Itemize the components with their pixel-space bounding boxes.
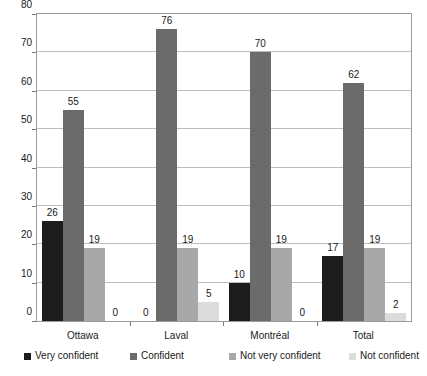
- x-axis-category-label: Ottawa: [67, 330, 99, 341]
- x-axis-tick-mark: [223, 322, 224, 326]
- y-axis-tick-label: 10: [4, 269, 32, 279]
- bar[interactable]: [229, 283, 250, 321]
- bar[interactable]: [42, 221, 63, 321]
- bar-group-bars: 1762192: [322, 14, 406, 321]
- bar-slot: 19: [364, 14, 385, 321]
- bar[interactable]: [156, 29, 177, 321]
- bar-group-bars: 1070190: [229, 14, 313, 321]
- y-axis-tick-label: 20: [4, 230, 32, 240]
- bar-group: 2655190: [37, 14, 131, 321]
- legend-item[interactable]: Not very confident: [229, 350, 321, 362]
- bar[interactable]: [271, 248, 292, 321]
- legend-swatch-icon: [24, 353, 31, 360]
- legend-swatch-icon: [130, 353, 137, 360]
- bar-value-label: 2: [393, 300, 399, 310]
- legend-swatch-icon: [349, 353, 356, 360]
- bar-value-label: 5: [206, 289, 212, 299]
- bars-layer: 265519007619510701901762192: [37, 14, 411, 321]
- bar-slot: 10: [229, 14, 250, 321]
- legend-label: Not very confident: [240, 350, 321, 362]
- bar-slot: 2: [385, 14, 406, 321]
- x-axis: OttawaLavalMontréalTotal: [36, 322, 412, 346]
- bar[interactable]: [322, 256, 343, 321]
- bar-value-label: 0: [143, 308, 149, 318]
- bar-slot: 17: [322, 14, 343, 321]
- legend-item[interactable]: Confident: [130, 350, 184, 362]
- chart-legend: Very confidentConfidentNot very confiden…: [24, 350, 416, 366]
- bar-value-label: 19: [276, 235, 287, 245]
- bar-value-label: 62: [348, 70, 359, 80]
- bar-value-label: 55: [68, 97, 79, 107]
- bar-slot: 26: [42, 14, 63, 321]
- bar[interactable]: [343, 83, 364, 321]
- bar-slot: 0: [292, 14, 313, 321]
- bar-slot: 5: [198, 14, 219, 321]
- y-axis-tick-label: 60: [4, 77, 32, 87]
- y-axis-tick-label: 50: [4, 115, 32, 125]
- x-axis-category-label: Laval: [164, 330, 188, 341]
- legend-label: Not confident: [360, 350, 419, 362]
- bar-group: 1070190: [224, 14, 318, 321]
- bar-slot: 76: [156, 14, 177, 321]
- y-axis-tick-label: 40: [4, 154, 32, 164]
- bar-value-label: 19: [182, 235, 193, 245]
- y-axis-tick-label: 80: [4, 0, 32, 10]
- legend-item[interactable]: Not confident: [349, 350, 419, 362]
- bar-value-label: 26: [47, 208, 58, 218]
- x-axis-tick-mark: [130, 322, 131, 326]
- bar-slot: 0: [105, 14, 126, 321]
- bar-slot: 62: [343, 14, 364, 321]
- bar-slot: 70: [250, 14, 271, 321]
- bar[interactable]: [385, 313, 406, 321]
- bar-value-label: 0: [299, 308, 305, 318]
- bar[interactable]: [198, 302, 219, 321]
- bar-group: 076195: [131, 14, 225, 321]
- bar-slot: 0: [135, 14, 156, 321]
- bar-value-label: 76: [161, 16, 172, 26]
- x-axis-category-label: Montréal: [250, 330, 289, 341]
- legend-item[interactable]: Very confident: [24, 350, 98, 362]
- legend-swatch-icon: [229, 353, 236, 360]
- legend-label: Very confident: [35, 350, 98, 362]
- x-axis-category-label: Total: [353, 330, 374, 341]
- bar-group-bars: 2655190: [42, 14, 126, 321]
- bar-value-label: 19: [89, 235, 100, 245]
- bar-value-label: 17: [327, 243, 338, 253]
- bar-value-label: 10: [234, 270, 245, 280]
- y-axis-tick-label: 0: [4, 307, 32, 317]
- bar[interactable]: [250, 52, 271, 321]
- x-axis-tick-mark: [317, 322, 318, 326]
- bar[interactable]: [177, 248, 198, 321]
- bar-slot: 55: [63, 14, 84, 321]
- y-axis-tick-label: 70: [4, 38, 32, 48]
- bar[interactable]: [63, 110, 84, 321]
- bar-group: 1762192: [318, 14, 412, 321]
- bar-chart: 01020304050607080 2655190076195107019017…: [0, 0, 427, 376]
- bar-value-label: 0: [112, 308, 118, 318]
- legend-label: Confident: [141, 350, 184, 362]
- bar-value-label: 19: [369, 235, 380, 245]
- bar[interactable]: [364, 248, 385, 321]
- bar-slot: 19: [84, 14, 105, 321]
- y-axis: 01020304050607080: [0, 13, 32, 322]
- bar-value-label: 70: [255, 39, 266, 49]
- bar-slot: 19: [177, 14, 198, 321]
- bar[interactable]: [84, 248, 105, 321]
- bar-slot: 19: [271, 14, 292, 321]
- y-axis-tick-label: 30: [4, 192, 32, 202]
- bar-group-bars: 076195: [135, 14, 219, 321]
